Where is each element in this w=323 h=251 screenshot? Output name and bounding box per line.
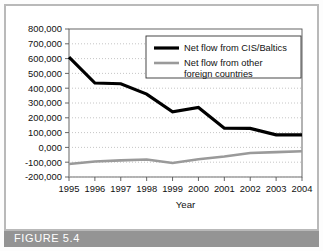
legend-label-other-countries-line2: foreign countries: [184, 69, 253, 79]
x-axis-tick-label: 2004: [292, 183, 313, 194]
y-axis-tick-label: 300,000: [28, 97, 62, 108]
y-axis-tick-label: 200,000: [28, 112, 62, 123]
x-axis-tick-label: 1997: [110, 183, 131, 194]
x-axis-tick-label: 2002: [240, 183, 261, 194]
x-axis-tick-label: 2003: [266, 183, 287, 194]
x-axis-tick-label: 1998: [136, 183, 157, 194]
y-axis-tick-label: 700,000: [28, 38, 62, 49]
y-axis-tick-label: -100,000: [25, 157, 62, 168]
y-axis-tick-label: 100,000: [28, 127, 62, 138]
x-axis-title: Year: [176, 199, 196, 210]
chart-plot-area: 800,000700,000600,000500,000400,000300,0…: [6, 6, 317, 211]
y-axis-tick-label: 0,000: [39, 142, 62, 153]
y-axis-tick-label: -200,000: [25, 171, 62, 182]
y-axis-tick-label: 800,000: [28, 23, 62, 34]
x-axis-tick-label: 2001: [214, 183, 235, 194]
legend-label-cis-baltics: Net flow from CIS/Baltics: [184, 43, 287, 53]
figure-caption-label: FIGURE 5.4: [14, 232, 80, 244]
figure-container: 800,000700,000600,000500,000400,000300,0…: [0, 0, 323, 251]
line-chart: 800,000700,000600,000500,000400,000300,0…: [6, 6, 317, 211]
legend-label-other-countries-line1: Net flow from other: [184, 58, 263, 68]
x-axis-tick-label: 1995: [59, 183, 80, 194]
x-axis-tick-label: 1996: [84, 183, 105, 194]
y-axis-tick-label: 600,000: [28, 53, 62, 64]
figure-caption-bar: FIGURE 5.4: [4, 231, 319, 247]
y-axis-tick-label: 400,000: [28, 83, 62, 94]
x-axis-tick-label: 1999: [162, 183, 183, 194]
y-axis-tick-label: 500,000: [28, 68, 62, 79]
x-axis-tick-label: 2000: [188, 183, 209, 194]
figure-frame: 800,000700,000600,000500,000400,000300,0…: [4, 4, 319, 231]
